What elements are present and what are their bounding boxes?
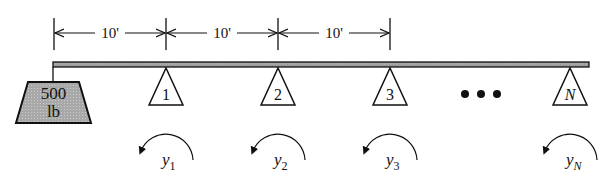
dimension-3: 10' [279,25,389,41]
weight-value: 500 [41,84,67,103]
dimension-label: 10' [213,25,231,41]
rotation-N: yN [545,134,597,173]
ellipsis-dot [493,90,501,98]
support-2: 2 [261,68,295,105]
ellipsis-dots [461,90,501,98]
hanging-weight: 500lb [16,67,91,123]
support-1: 1 [149,68,183,105]
dimension-label: 10' [101,25,119,41]
beam-bar [53,62,589,67]
beam [53,62,589,67]
rotation-3: y3 [365,134,417,173]
rotation-2: y2 [253,134,305,173]
rotation-1: y1 [141,134,193,173]
dimension-1: 10' [55,25,165,41]
support-label: 1 [162,86,170,103]
rotation-label: y1 [160,150,176,173]
support-N: N [553,68,587,105]
support-3: 3 [373,68,407,105]
supports: 123N [149,68,587,105]
beam-diagram: 10'10'10' 500lb 123N y1y2y3yN [0,0,609,186]
support-label: N [564,86,577,103]
support-label: 3 [386,86,394,103]
rotation-label: y3 [384,150,400,173]
rotation-arrows: y1y2y3yN [141,134,597,173]
weight-unit: lb [47,102,60,121]
dimension-lines: 10'10'10' [54,18,390,50]
ellipsis-dot [477,90,485,98]
support-label: 2 [274,86,282,103]
dimension-label: 10' [325,25,343,41]
rotation-label: y2 [272,150,288,173]
dimension-2: 10' [167,25,277,41]
ellipsis-dot [461,90,469,98]
rotation-label: yN [564,150,583,173]
